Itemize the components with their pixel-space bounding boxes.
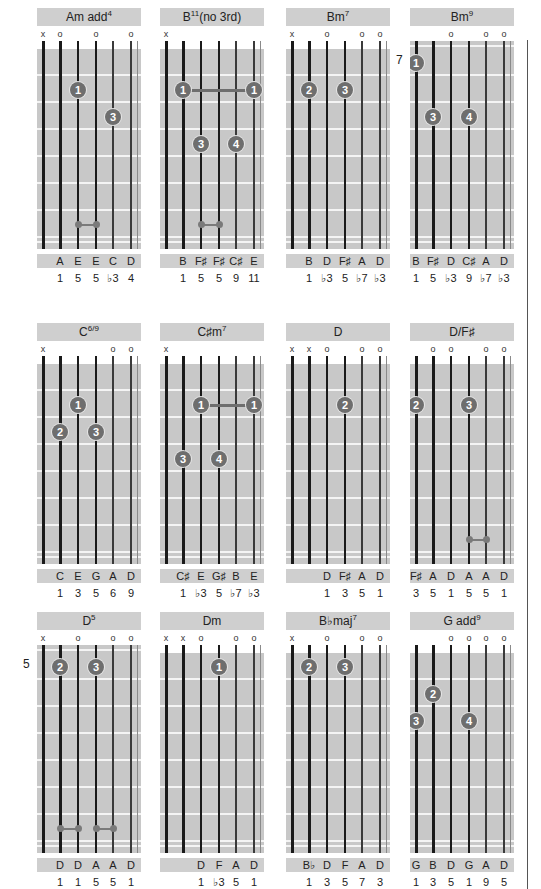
start-fret-number: 7 [396, 53, 403, 67]
fret-line [160, 470, 264, 472]
fret-line [410, 182, 514, 184]
fret-line [160, 101, 264, 103]
interval-label: 5 [424, 586, 442, 600]
interval-label: 5 [69, 271, 87, 285]
guitar-string [468, 356, 470, 564]
open-string-mark: o [249, 632, 259, 644]
fret-line [286, 840, 390, 842]
finger-dot: 3 [175, 451, 191, 467]
fret-line [410, 209, 514, 211]
fretboard-edge [510, 645, 511, 853]
string-marks-row: xooo [37, 28, 141, 40]
interval-label: 7 [353, 875, 371, 889]
finger-dot: 2 [410, 397, 424, 413]
interval-label: 9 [460, 271, 478, 285]
fret-line [160, 182, 264, 184]
note-name: A [477, 569, 495, 583]
open-string-mark: o [196, 632, 206, 644]
fretboard-edge [137, 645, 138, 853]
chord-superscript: 7 [222, 324, 226, 333]
fret-line [286, 786, 390, 788]
note-name: D [69, 858, 87, 872]
guitar-string [253, 356, 254, 564]
fretboard: 13 [37, 41, 141, 249]
harmonic-dot [93, 221, 100, 228]
notes-row: BF♯F♯C♯E [160, 254, 264, 268]
fret-line [37, 649, 141, 651]
fret-line [37, 845, 141, 847]
fret-line [37, 732, 141, 734]
guitar-string [432, 356, 435, 564]
fret-line [160, 705, 264, 707]
open-string-mark: o [322, 632, 332, 644]
note-name: G♯ [210, 569, 228, 583]
interval-label: 1 [442, 586, 460, 600]
finger-dot: 2 [425, 686, 441, 702]
fret-line [410, 551, 514, 553]
fret-line [37, 101, 141, 103]
open-string-mark: o [91, 28, 101, 40]
fretboard: 234 [410, 645, 514, 853]
chord-superscript: 5 [91, 613, 95, 622]
note-name: D [318, 858, 336, 872]
guitar-string [200, 645, 203, 853]
fret-line [286, 678, 390, 680]
fret-line [160, 209, 264, 211]
muted-string-mark: x [38, 343, 48, 355]
note-name: A [227, 858, 245, 872]
interval-label: ♭3 [495, 271, 513, 285]
fretboard: 23 [286, 41, 390, 249]
intervals-row: 135195 [410, 875, 514, 889]
note-name: A [104, 858, 122, 872]
guitar-string [95, 41, 97, 249]
guitar-string [485, 645, 487, 853]
chord-name: Am add [66, 10, 107, 24]
fret-line [37, 470, 141, 472]
guitar-string [95, 645, 97, 853]
note-name: C [104, 254, 122, 268]
note-name: C♯ [460, 254, 478, 268]
interval-label: 5 [210, 586, 228, 600]
note-name: E [192, 569, 210, 583]
chord-title: B11(no 3rd) [160, 8, 264, 26]
string-marks-row: ooo [410, 28, 514, 40]
note-name: A [353, 569, 371, 583]
note-name: D [371, 254, 389, 268]
finger-dot: 1 [193, 397, 209, 413]
guitar-string [344, 645, 346, 853]
open-string-mark: o [322, 343, 332, 355]
open-string-mark: o [446, 28, 456, 40]
note-name: D [122, 569, 140, 583]
note-name: C♯ [227, 254, 245, 268]
interval-label: 1 [407, 875, 425, 889]
guitar-string [308, 41, 311, 249]
chord-name: D [334, 325, 343, 339]
guitar-string [130, 645, 131, 853]
fret-line [37, 236, 141, 238]
fret-line [286, 524, 390, 526]
note-name: D [495, 254, 513, 268]
finger-dot: 2 [301, 659, 317, 675]
string-marks-row: oooo [410, 632, 514, 644]
guitar-string [415, 645, 418, 853]
open-string-mark: o [126, 28, 136, 40]
fret-line [37, 155, 141, 157]
note-name: F♯ [192, 254, 210, 268]
chord-title: Bm7 [286, 8, 390, 26]
guitar-string [432, 41, 435, 249]
chord-superscript: 9 [469, 9, 473, 18]
fret-line [410, 101, 514, 103]
guitar-string [218, 645, 220, 853]
notes-row: F♯ADAAD [410, 569, 514, 583]
interval-label: 6 [104, 586, 122, 600]
intervals-row: 13569 [37, 586, 141, 600]
guitar-string [361, 645, 363, 853]
fretboard-edge [510, 356, 511, 564]
guitar-string [361, 356, 363, 564]
finger-dot: 1 [175, 82, 191, 98]
string-marks-row: xxooo [160, 632, 264, 644]
finger-dot: 1 [410, 55, 424, 71]
fret-line [160, 813, 264, 815]
notes-row: C♯EG♯BE [160, 569, 264, 583]
nut [286, 356, 390, 364]
